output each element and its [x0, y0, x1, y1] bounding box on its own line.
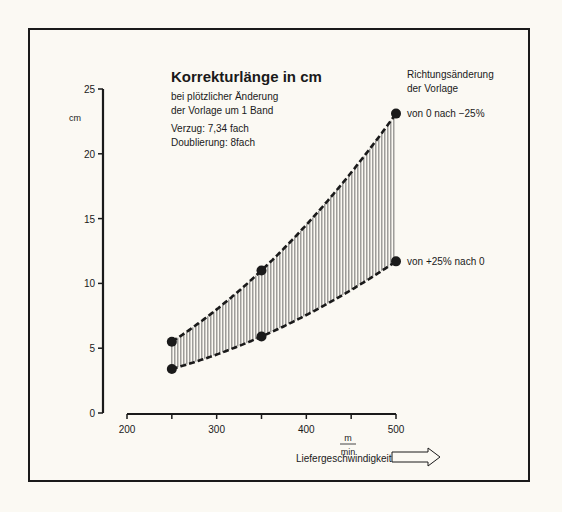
subtitle-line-2: der Vorlage um 1 Band [171, 105, 273, 116]
chart-title: Korrekturlänge in cm [171, 68, 322, 85]
y-tick-label: 20 [84, 149, 96, 160]
series-line-lower [172, 261, 396, 369]
data-point-lower [391, 256, 401, 266]
legend-title-line-2: der Vorlage [407, 83, 459, 94]
x-tick-label: 200 [119, 424, 136, 435]
x-tick-label: 500 [388, 424, 405, 435]
direction-arrow-icon [392, 448, 440, 466]
data-point-upper [391, 109, 401, 119]
note-verzug: Verzug: 7,34 fach [171, 123, 249, 134]
y-tick-label: 0 [89, 408, 95, 419]
y-tick-label: 5 [89, 343, 95, 354]
y-axis-label: cm [69, 113, 81, 123]
chart: 0510152025200300400500 Korrekturlänge in… [0, 0, 562, 512]
data-point-lower [167, 364, 177, 374]
hatch-fill [172, 117, 394, 369]
x-unit-numerator: m [344, 433, 352, 443]
series-label-lower: von +25% nach 0 [407, 256, 485, 267]
y-tick-label: 10 [84, 278, 96, 289]
note-doublierung: Doublierung: 8fach [171, 137, 255, 148]
y-tick-label: 25 [84, 84, 96, 95]
data-point-upper [257, 265, 267, 275]
data-point-upper [167, 337, 177, 347]
y-tick-label: 15 [84, 214, 96, 225]
x-axis-label: Liefergeschwindigkeit [296, 453, 392, 464]
x-tick-label: 400 [298, 424, 315, 435]
legend-title-line-1: Richtungsänderung [407, 69, 494, 80]
data-point-lower [257, 332, 267, 342]
subtitle-line-1: bei plötzlicher Änderung [171, 91, 278, 102]
x-tick-label: 300 [208, 424, 225, 435]
series-label-upper: von 0 nach −25% [407, 108, 485, 119]
